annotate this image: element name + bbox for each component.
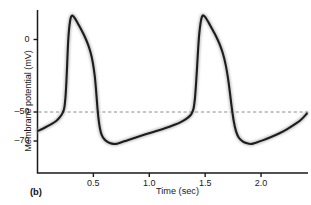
x-tick-label: 1.5 [192,178,218,188]
x-tick-label: 1.0 [136,178,162,188]
y-tick-label: 0 [4,34,30,44]
x-tick-label: 0.5 [80,178,106,188]
y-tick-label: –70 [4,135,30,145]
action-potential-figure: Membrane potential (mV) Time (sec) (b) 0… [0,0,311,205]
x-tick-label: 2.0 [248,178,274,188]
chart-canvas [0,0,311,205]
membrane-potential-trace [38,15,307,144]
panel-label: (b) [30,186,42,197]
axes [34,10,309,177]
y-axis-label: Membrane potential (mV) [23,26,33,176]
y-tick-label: –50 [4,106,30,116]
